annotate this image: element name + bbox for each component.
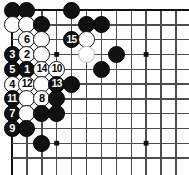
move-number-label: 14 <box>37 64 47 74</box>
stone-black-c8r4 <box>108 46 125 63</box>
move-number-label: 7 <box>9 108 15 119</box>
stone-black-c2r9 <box>18 120 35 137</box>
move-number-label: 1 <box>24 63 30 74</box>
go-board-diagram: 615325114104121311879 <box>0 0 189 175</box>
move-number-label: 15 <box>67 34 77 44</box>
move-number-label: 12 <box>22 79 32 89</box>
stone-black-c3r10 <box>33 135 50 152</box>
move-number-label: 8 <box>39 93 45 104</box>
move-number-label: 9 <box>9 122 15 133</box>
move-number-label: 5 <box>9 63 15 74</box>
stone-black-c4r8 <box>48 105 65 122</box>
move-number-label: 6 <box>24 34 30 45</box>
stone-white-faint-c6r4 <box>78 46 95 63</box>
move-number-label: 11 <box>7 93 17 103</box>
move-number-label: 4 <box>9 78 15 89</box>
move-number-label: 10 <box>52 64 62 74</box>
stone-layer: 615325114104121311879 <box>0 0 189 175</box>
stone-black-c7r5 <box>93 61 110 78</box>
stone-black-c5r6 <box>63 76 80 93</box>
move-number-label: 13 <box>52 79 62 89</box>
move-number-label: 3 <box>9 48 15 59</box>
move-number-label: 2 <box>24 48 30 59</box>
stone-black-c5r1 <box>63 2 80 19</box>
stone-black-c7r2 <box>93 16 110 33</box>
